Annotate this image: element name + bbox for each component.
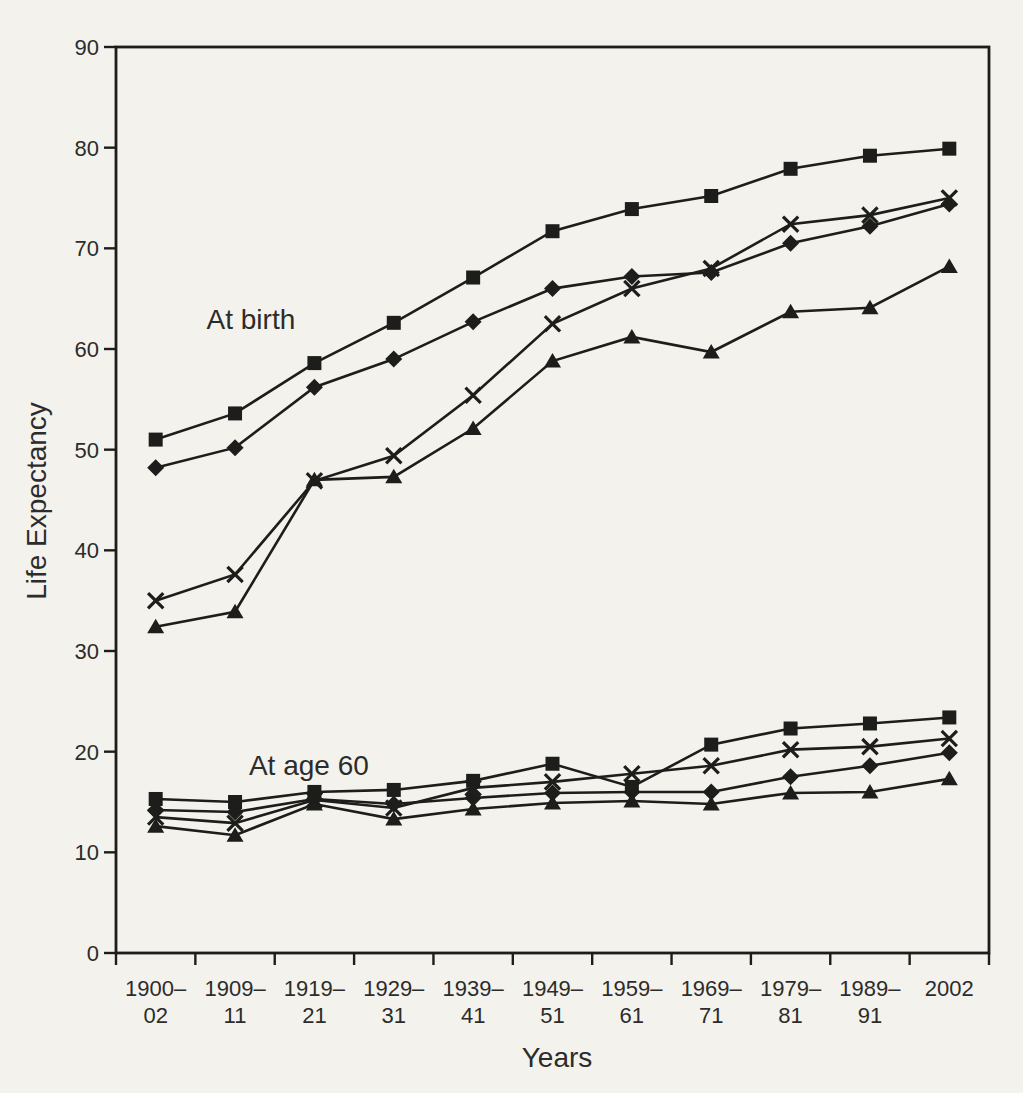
marker-diamond (861, 757, 878, 774)
life-expectancy-line-chart: 01020304050607080901900–021909–111919–21… (0, 0, 1023, 1093)
marker-triangle (147, 818, 164, 833)
x-tick-label-line1: 1909– (204, 976, 266, 1001)
axes: 01020304050607080901900–021909–111919–21… (75, 35, 989, 1028)
y-tick-label: 40 (75, 538, 99, 563)
marker-triangle (941, 771, 958, 786)
x-tick-label-line1: 1979– (760, 976, 822, 1001)
marker-square (228, 406, 242, 420)
y-tick-label: 80 (75, 136, 99, 161)
series-line-at-birth-x (156, 198, 950, 601)
marker-triangle (227, 604, 244, 619)
x-tick-label-line2: 31 (382, 1003, 406, 1028)
marker-x (387, 449, 400, 462)
y-tick-label: 0 (87, 941, 99, 966)
marker-triangle (941, 258, 958, 273)
marker-x (149, 594, 162, 607)
x-axis-title: Years (522, 1042, 593, 1073)
x-tick-label-line1: 1929– (363, 976, 425, 1001)
marker-square (704, 189, 718, 203)
marker-x (546, 317, 559, 330)
marker-diamond (782, 768, 799, 785)
series-at-birth-x (149, 192, 956, 608)
y-axis-title: Life Expectancy (21, 402, 52, 600)
y-tick-label: 90 (75, 35, 99, 60)
marker-square (863, 716, 877, 730)
x-tick-label-line2: 91 (858, 1003, 882, 1028)
marker-x (467, 389, 480, 402)
marker-square (625, 202, 639, 216)
marker-triangle (623, 329, 640, 344)
x-tick-label-line2: 51 (540, 1003, 564, 1028)
plot-border (116, 47, 989, 953)
y-tick-label: 70 (75, 236, 99, 261)
marker-square (546, 224, 560, 238)
marker-diamond (465, 313, 482, 330)
marker-square (942, 710, 956, 724)
x-tick-label-line2: 61 (620, 1003, 644, 1028)
marker-diamond (147, 459, 164, 476)
x-tick-label-line1: 2002 (925, 976, 974, 1001)
y-tick-label: 20 (75, 740, 99, 765)
x-tick-label-line1: 1959– (601, 976, 663, 1001)
marker-square (704, 738, 718, 752)
marker-square (466, 271, 480, 285)
y-tick-label: 60 (75, 337, 99, 362)
x-tick-label-line2: 21 (302, 1003, 326, 1028)
marker-diamond (782, 235, 799, 252)
marker-square (307, 356, 321, 370)
marker-square (784, 722, 798, 736)
marker-square (942, 142, 956, 156)
x-tick-label-line1: 1969– (681, 976, 743, 1001)
y-tick-label: 10 (75, 840, 99, 865)
annotation-at-age-60: At age 60 (249, 750, 369, 781)
marker-diamond (385, 351, 402, 368)
y-tick-label: 30 (75, 639, 99, 664)
x-tick-label-line1: 1900– (125, 976, 187, 1001)
marker-square (546, 757, 560, 771)
marker-diamond (544, 280, 561, 297)
series-line-at-birth-diamond (156, 204, 950, 468)
marker-square (387, 783, 401, 797)
marker-square (387, 316, 401, 330)
marker-square (784, 162, 798, 176)
marker-square (149, 433, 163, 447)
x-tick-label-line1: 1919– (284, 976, 346, 1001)
x-tick-label-line2: 11 (224, 1003, 247, 1028)
x-tick-label-line2: 71 (699, 1003, 723, 1028)
marker-x (229, 568, 242, 581)
x-tick-label-line2: 81 (778, 1003, 802, 1028)
x-tick-label-line1: 1949– (522, 976, 584, 1001)
annotation-at-birth: At birth (207, 304, 296, 335)
x-tick-label-line1: 1989– (839, 976, 901, 1001)
scanned-chart-page: 01020304050607080901900–021909–111919–21… (0, 0, 1023, 1093)
data-series (147, 142, 958, 842)
y-tick-label: 50 (75, 438, 99, 463)
series-at-age-60-x (149, 732, 956, 830)
marker-square (863, 149, 877, 163)
x-tick-label-line2: 41 (461, 1003, 485, 1028)
x-tick-label-line1: 1939– (443, 976, 505, 1001)
x-tick-label-line2: 02 (143, 1003, 167, 1028)
